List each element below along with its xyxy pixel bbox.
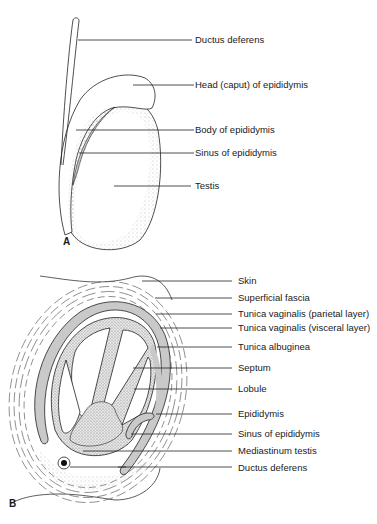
label-sinus-of-epididymis-b: Sinus of epididymis (238, 428, 320, 439)
panel-letter-b: B (9, 498, 16, 509)
anatomy-illustration (0, 0, 377, 524)
label-sinus-of-epididymis-a: Sinus of epididymis (195, 147, 277, 158)
label-mediastinum-testis: Mediastinum testis (238, 445, 317, 456)
label-ductus-deferens-b: Ductus deferens (238, 462, 307, 473)
label-tunica-vaginalis-visceral: Tunica vaginalis (visceral layer) (238, 322, 370, 333)
label-tunica-albuginea: Tunica albuginea (238, 341, 310, 352)
panel-b-drawing (0, 261, 232, 522)
label-epididymis: Epididymis (238, 408, 284, 419)
label-skin: Skin (238, 275, 256, 286)
label-testis: Testis (195, 180, 219, 191)
label-head-of-epididymis: Head (caput) of epididymis (195, 79, 308, 90)
label-ductus-deferens-a: Ductus deferens (195, 34, 264, 45)
panel-a-drawing (59, 18, 194, 250)
panel-letter-a: A (63, 236, 70, 247)
label-body-of-epididymis: Body of epididymis (195, 124, 275, 135)
label-lobule: Lobule (238, 383, 267, 394)
label-septum: Septum (238, 362, 271, 373)
label-tunica-vaginalis-parietal: Tunica vaginalis (parietal layer) (238, 308, 369, 319)
label-superficial-fascia: Superficial fascia (238, 292, 310, 303)
